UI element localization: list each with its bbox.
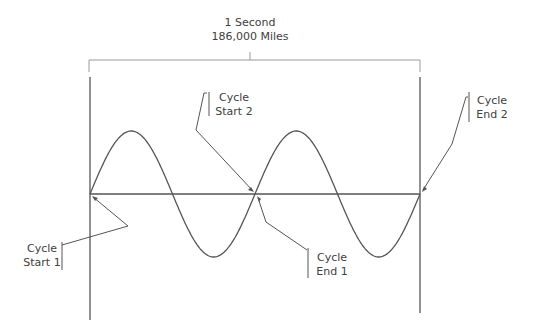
callout-cycle-start-1	[62, 197, 128, 270]
label-cycle-start-1: Cycle Start 1	[20, 242, 64, 270]
time-span-brace	[89, 52, 420, 72]
waveform-diagram	[0, 0, 534, 333]
arrowhead-cycle-end-2	[422, 186, 427, 192]
callout-cycle-end-1	[258, 198, 308, 278]
label-line: End 2	[470, 108, 514, 122]
label-cycle-end-2: Cycle End 2	[470, 94, 514, 122]
label-line: Cycle	[470, 94, 514, 108]
label-line: Start 1	[20, 256, 64, 270]
time-label: 1 Second 186,000 Miles	[200, 16, 300, 44]
label-line: Start 2	[208, 105, 260, 119]
arrowhead-cycle-start-2	[248, 187, 254, 192]
label-line: Cycle	[20, 242, 64, 256]
label-line: Cycle	[310, 251, 354, 265]
label-line: Cycle	[208, 91, 260, 105]
label-cycle-end-1: Cycle End 1	[310, 251, 354, 279]
arrowhead-cycle-end-1	[257, 196, 261, 202]
label-line: End 1	[310, 265, 354, 279]
label-cycle-start-2: Cycle Start 2	[208, 91, 260, 119]
distance-text: 186,000 Miles	[200, 30, 300, 44]
duration-text: 1 Second	[200, 16, 300, 30]
callout-cycle-end-2	[423, 92, 469, 190]
